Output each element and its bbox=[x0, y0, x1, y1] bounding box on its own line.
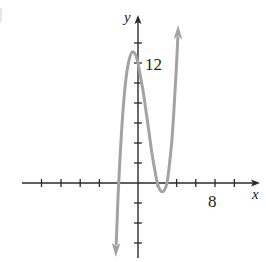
x-axis: 8 x bbox=[22, 179, 260, 211]
x-tick-label-8: 8 bbox=[208, 192, 217, 211]
x-axis-label: x bbox=[251, 186, 259, 202]
polynomial-graph: 8 x 12 y bbox=[0, 0, 266, 262]
y-axis-label: y bbox=[122, 9, 131, 25]
y-tick-label-12: 12 bbox=[145, 55, 162, 74]
y-axis: 12 y bbox=[122, 9, 162, 258]
